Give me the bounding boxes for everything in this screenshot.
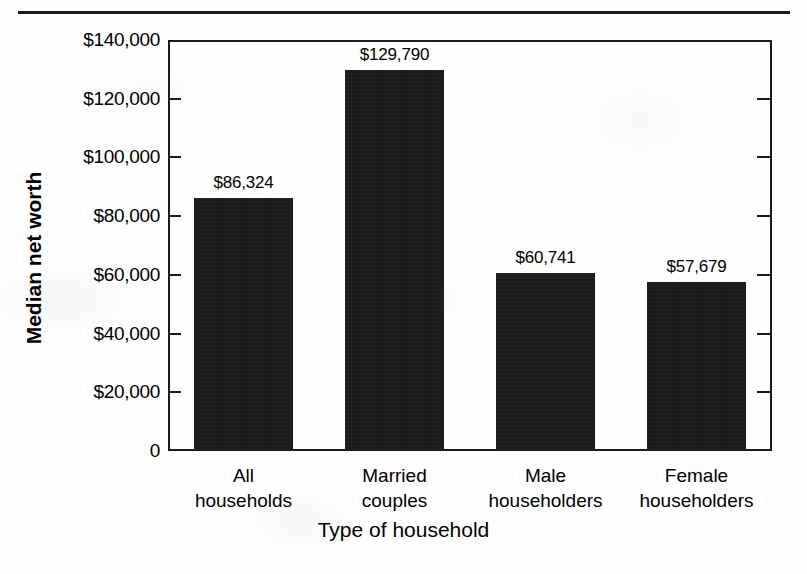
bar: [345, 70, 444, 450]
y-axis-title: Median net worth: [22, 138, 46, 378]
bar-value-label: $86,324: [213, 173, 273, 193]
y-axis-tick-label: 0: [150, 440, 160, 462]
bar: [496, 273, 595, 450]
bar: [194, 198, 293, 450]
y-axis-tick-label: $80,000: [93, 205, 160, 227]
x-axis-category-label: Malehouseholders: [488, 463, 602, 513]
x-axis-category-label-line: Male: [488, 463, 602, 488]
y-axis-tick-label: $40,000: [93, 323, 160, 345]
x-axis-category-label-line: householders: [639, 488, 753, 513]
y-axis-tick-label: $100,000: [83, 146, 160, 168]
bar-value-label: $129,790: [360, 45, 429, 65]
x-axis-category-label: Allhouseholds: [195, 463, 292, 513]
bar-value-label: $60,741: [515, 248, 575, 268]
bar-value-label: $57,679: [666, 257, 726, 277]
x-axis-category-label-line: Married: [362, 463, 428, 488]
x-axis-category-label: Femalehouseholders: [639, 463, 753, 513]
x-axis-category-label-line: All: [195, 463, 292, 488]
y-axis-tick-label: $60,000: [93, 264, 160, 286]
x-axis-category-label-line: householders: [488, 488, 602, 513]
x-axis-category-label: Marriedcouples: [362, 463, 428, 513]
x-axis-category-label-line: couples: [362, 488, 428, 513]
chart-page: 0$20,000$40,000$60,000$80,000$100,000$12…: [0, 0, 807, 574]
bar: [647, 282, 746, 450]
x-axis-category-label-line: Female: [639, 463, 753, 488]
x-axis-title: Type of household: [0, 518, 807, 542]
y-axis-tick-label: $140,000: [83, 29, 160, 51]
y-axis-tick-label: $20,000: [93, 381, 160, 403]
y-axis-tick-label: $120,000: [83, 88, 160, 110]
x-axis-category-label-line: households: [195, 488, 292, 513]
